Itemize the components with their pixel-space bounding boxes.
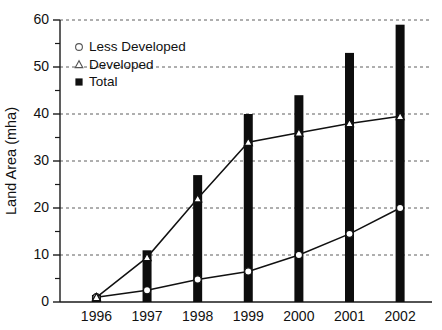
y-tick-label-60: 60 [33, 11, 49, 27]
y-tick-label-10: 10 [33, 246, 49, 262]
bar-2002 [396, 25, 405, 302]
marker-1999 [245, 268, 252, 275]
y-axis-title: Land Area (mha) [3, 107, 19, 215]
y-axis-ticks: 0102030405060 [33, 11, 60, 309]
legend-label-less-developed: Less Developed [89, 39, 186, 54]
y-tick-label-20: 20 [33, 199, 49, 215]
marker-2002 [397, 204, 404, 211]
x-tick-label-1996: 1996 [81, 308, 112, 324]
legend-marker-less-developed [76, 44, 83, 51]
x-tick-label-2001: 2001 [334, 308, 365, 324]
y-tick-label-50: 50 [33, 58, 49, 74]
x-axis-ticks: 1996199719981999200020012002 [81, 308, 416, 324]
marker-1998 [194, 276, 201, 283]
chart-plot-area: 0102030405060Land Area (mha)199619971998… [0, 0, 442, 330]
marker-2000 [295, 251, 302, 258]
y-tick-label-40: 40 [33, 105, 49, 121]
marker-1997 [143, 287, 150, 294]
x-tick-label-2000: 2000 [283, 308, 314, 324]
legend-marker-developed [75, 61, 83, 68]
chart-container: 0102030405060Land Area (mha)199619971998… [0, 0, 442, 330]
marker-2001 [346, 230, 353, 237]
x-tick-label-1998: 1998 [182, 308, 213, 324]
x-tick-label-1997: 1997 [131, 308, 162, 324]
legend-label-developed: Developed [89, 57, 154, 72]
x-tick-label-1999: 1999 [233, 308, 264, 324]
bar-2001 [345, 53, 354, 302]
chart-legend: Less DevelopedDevelopedTotal [75, 39, 186, 89]
legend-marker-total [75, 78, 82, 85]
bar-2000 [294, 95, 303, 302]
y-tick-label-30: 30 [33, 152, 49, 168]
legend-label-total: Total [89, 74, 118, 89]
x-tick-label-2002: 2002 [385, 308, 416, 324]
y-tick-label-0: 0 [41, 293, 49, 309]
